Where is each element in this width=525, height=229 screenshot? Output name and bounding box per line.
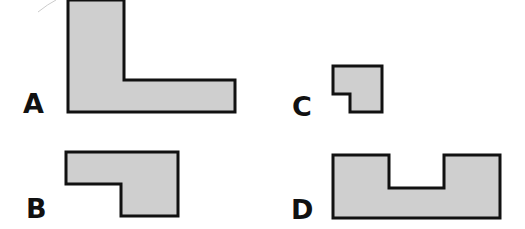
shape-d-u-shape (333, 155, 500, 218)
decorative-arc (38, 0, 56, 12)
shape-c-notched-square (333, 66, 382, 112)
shape-b-step (66, 152, 178, 216)
label-a: A (23, 90, 44, 117)
shape-figure: A B C D (0, 0, 525, 229)
shapes-svg (0, 0, 525, 229)
label-b: B (26, 195, 47, 222)
shape-a-l-shape (68, 0, 235, 112)
label-c: C (292, 93, 312, 120)
label-d: D (291, 196, 313, 223)
